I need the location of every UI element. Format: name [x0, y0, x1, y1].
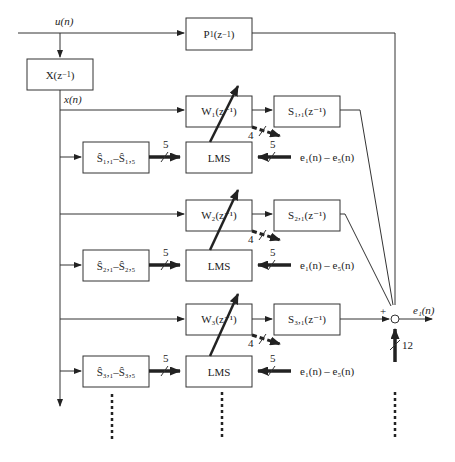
output-error-label: e₁(n) [413, 305, 435, 316]
s21-box: S₂,₁(z⁻¹) [274, 200, 340, 231]
error-input-label: e₁(n) – e₅(n) [300, 366, 354, 377]
error-input-label: e₁(n) – e₅(n) [300, 152, 354, 163]
p1-filter-label: P1(z−1) [186, 18, 252, 50]
plus-sign: + [380, 306, 386, 317]
w2-box: W₂(z⁻¹) [186, 200, 252, 231]
bus-width-5: 5 [163, 353, 169, 364]
model-bank-1: Ŝ₁,₁–Ŝ₁,₅ [83, 142, 149, 173]
u-label: u(n) [55, 16, 73, 27]
bus-width-5: 5 [163, 247, 169, 258]
model-bank-2: Ŝ₂,₁–Ŝ₂,₅ [83, 250, 149, 281]
model-bank-3: Ŝ₃,₁–Ŝ₃,₅ [83, 356, 149, 387]
lms-box-2: LMS [186, 250, 252, 281]
x-label: x(n) [64, 94, 82, 105]
bus-width-4: 4 [248, 338, 254, 349]
s31-box: S₃,₁(z⁻¹) [274, 304, 340, 335]
bus-width-5: 5 [163, 139, 169, 150]
bus-width-12: 12 [402, 340, 413, 351]
lms-box-3: LMS [186, 356, 252, 387]
bus-width-4: 4 [248, 234, 254, 245]
bus-width-4: 4 [248, 130, 254, 141]
w3-box: W₃(z⁻¹) [186, 304, 252, 335]
error-input-label: e₁(n) – e₅(n) [300, 260, 354, 271]
bus-width-5: 5 [270, 139, 276, 150]
bus-width-5: 5 [270, 353, 276, 364]
lms-box-1: LMS [186, 142, 252, 173]
bus-width-5: 5 [270, 247, 276, 258]
s11-box: S₁,₁(z⁻¹) [274, 96, 340, 127]
w1-box: W₁(z⁻¹) [186, 96, 252, 127]
x-filter-label: X(z−1) [27, 59, 93, 90]
